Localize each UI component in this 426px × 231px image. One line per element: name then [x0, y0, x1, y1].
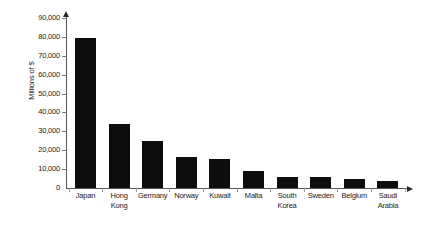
bar: [344, 179, 365, 188]
x-axis-category-label: Belgium: [337, 191, 371, 201]
bar: [377, 181, 398, 188]
x-axis-category-label: Japan: [69, 191, 103, 201]
x-axis-category-label: Sweden: [304, 191, 338, 201]
bar: [277, 177, 298, 188]
x-axis-category-labels: JapanHong KongGermanyNorwayKuwaitMaltaSo…: [0, 191, 426, 225]
x-axis-category-label: Hong Kong: [102, 191, 136, 210]
x-axis-category-label: Norway: [169, 191, 203, 201]
x-axis-category-label: South Korea: [270, 191, 304, 210]
bar: [109, 124, 130, 188]
y-axis-tick-mark: [62, 150, 67, 151]
bar-chart: Millions of $ 010,00020,00030,00040,0005…: [0, 0, 426, 231]
x-axis-category-label: Kuwait: [203, 191, 237, 201]
y-axis-tick-mark: [62, 56, 67, 57]
x-axis-category-label: Saudi Arabia: [371, 191, 405, 210]
y-axis-tick-mark: [62, 18, 67, 19]
x-axis-tick-mark: [405, 188, 406, 192]
x-axis-tick-mark: [304, 188, 305, 192]
y-axis-tick-mark: [62, 112, 67, 113]
bar: [310, 177, 331, 188]
x-axis-category-label: Malta: [237, 191, 271, 201]
x-axis-tick-mark: [102, 188, 103, 192]
bar: [243, 171, 264, 188]
x-axis-tick-mark: [203, 188, 204, 192]
y-axis-tick-mark: [62, 169, 67, 170]
bar: [75, 38, 96, 188]
bar: [176, 157, 197, 188]
y-axis-tick-mark: [62, 94, 67, 95]
x-axis-tick-mark: [69, 188, 70, 192]
bar: [142, 141, 163, 188]
x-axis-tick-mark: [371, 188, 372, 192]
x-axis-tick-mark: [270, 188, 271, 192]
y-axis-tick-mark: [62, 75, 67, 76]
bar: [209, 159, 230, 188]
bottom-caption: [0, 226, 426, 231]
y-axis-tick-mark: [62, 37, 67, 38]
y-axis-tick-mark: [62, 131, 67, 132]
x-axis-tick-mark: [169, 188, 170, 192]
x-axis-tick-mark: [136, 188, 137, 192]
x-axis-tick-mark: [337, 188, 338, 192]
x-axis-tick-mark: [237, 188, 238, 192]
x-axis-category-label: Germany: [136, 191, 170, 201]
